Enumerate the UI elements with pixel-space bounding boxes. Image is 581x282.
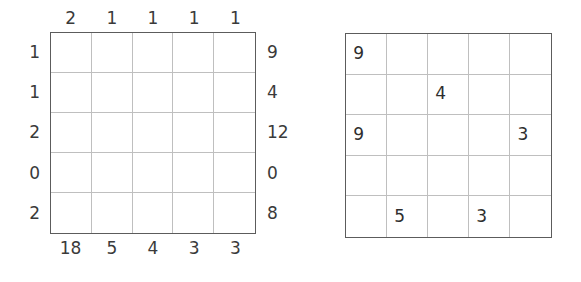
answer-cell-r2c1[interactable] <box>346 75 387 116</box>
cell-r2c4[interactable] <box>173 73 214 113</box>
cell-r3c5[interactable] <box>214 113 255 153</box>
cell-r2c5[interactable] <box>214 73 255 113</box>
right-puzzle: 9 4 9 3 5 3 <box>290 0 581 282</box>
answer-cell-r1c2[interactable] <box>387 34 428 75</box>
answer-cell-r1c3[interactable] <box>428 34 469 75</box>
cell-r1c5[interactable] <box>214 33 255 73</box>
right-puzzle-grid[interactable]: 9 4 9 3 5 3 <box>345 33 552 238</box>
answer-cell-r5c3[interactable] <box>428 196 469 237</box>
cell-r1c1[interactable] <box>51 33 92 73</box>
cell-r5c5[interactable] <box>214 193 255 233</box>
answer-cell-r2c4[interactable] <box>469 75 510 116</box>
cell-r2c3[interactable] <box>133 73 174 113</box>
answer-cell-r3c1[interactable]: 9 <box>346 115 387 156</box>
answer-cell-r4c5[interactable] <box>510 156 551 197</box>
answer-cell-r1c4[interactable] <box>469 34 510 75</box>
left-puzzle-top-clues: 2 1 1 1 1 <box>50 6 256 30</box>
clue-left-3: 2 <box>10 113 50 153</box>
cell-r5c2[interactable] <box>92 193 133 233</box>
answer-cell-r5c1[interactable] <box>346 196 387 237</box>
cell-r1c2[interactable] <box>92 33 133 73</box>
cell-r5c1[interactable] <box>51 193 92 233</box>
left-puzzle-bottom-clues: 18 5 4 3 3 <box>50 236 256 260</box>
answer-cell-r5c2[interactable]: 5 <box>387 196 428 237</box>
cell-r3c4[interactable] <box>173 113 214 153</box>
cell-r4c4[interactable] <box>173 153 214 193</box>
cell-r2c2[interactable] <box>92 73 133 113</box>
answer-cell-r2c3[interactable]: 4 <box>428 75 469 116</box>
cell-r1c3[interactable] <box>133 33 174 73</box>
clue-bottom-1: 18 <box>50 236 91 260</box>
clue-left-5: 2 <box>10 194 50 234</box>
cell-r3c3[interactable] <box>133 113 174 153</box>
clue-bottom-2: 5 <box>91 236 132 260</box>
clue-bottom-3: 4 <box>132 236 173 260</box>
clue-bottom-5: 3 <box>215 236 256 260</box>
answer-cell-r5c5[interactable] <box>510 196 551 237</box>
cell-r5c4[interactable] <box>173 193 214 233</box>
answer-cell-r3c5[interactable]: 3 <box>510 115 551 156</box>
clue-top-3: 1 <box>132 6 173 30</box>
answer-cell-r4c2[interactable] <box>387 156 428 197</box>
left-puzzle-left-clues: 1 1 2 0 2 <box>10 32 50 234</box>
answer-value-r1c1: 9 <box>353 45 364 62</box>
answer-cell-r5c4[interactable]: 3 <box>469 196 510 237</box>
cell-r4c1[interactable] <box>51 153 92 193</box>
cell-r5c3[interactable] <box>133 193 174 233</box>
puzzle-canvas: 2 1 1 1 1 1 1 2 0 2 <box>0 0 581 282</box>
answer-value-r3c5: 3 <box>517 126 528 143</box>
answer-cell-r1c5[interactable] <box>510 34 551 75</box>
clue-left-4: 0 <box>10 153 50 193</box>
clue-bottom-4: 3 <box>174 236 215 260</box>
clue-top-5: 1 <box>215 6 256 30</box>
answer-value-r5c4: 3 <box>476 208 487 225</box>
answer-cell-r2c2[interactable] <box>387 75 428 116</box>
left-puzzle: 2 1 1 1 1 1 1 2 0 2 <box>0 0 290 282</box>
answer-cell-r4c3[interactable] <box>428 156 469 197</box>
answer-value-r2c3: 4 <box>435 86 446 103</box>
clue-top-1: 2 <box>50 6 91 30</box>
answer-cell-r3c2[interactable] <box>387 115 428 156</box>
left-puzzle-grid[interactable] <box>50 32 256 234</box>
answer-value-r5c2: 5 <box>394 208 405 225</box>
cell-r4c5[interactable] <box>214 153 255 193</box>
answer-cell-r3c4[interactable] <box>469 115 510 156</box>
clue-left-1: 1 <box>10 32 50 72</box>
cell-r4c3[interactable] <box>133 153 174 193</box>
cell-r3c1[interactable] <box>51 113 92 153</box>
cell-r1c4[interactable] <box>173 33 214 73</box>
answer-cell-r2c5[interactable] <box>510 75 551 116</box>
clue-top-2: 1 <box>91 6 132 30</box>
answer-cell-r4c4[interactable] <box>469 156 510 197</box>
answer-cell-r4c1[interactable] <box>346 156 387 197</box>
cell-r2c1[interactable] <box>51 73 92 113</box>
clue-top-4: 1 <box>174 6 215 30</box>
cell-r4c2[interactable] <box>92 153 133 193</box>
answer-value-r3c1: 9 <box>353 126 364 143</box>
answer-cell-r1c1[interactable]: 9 <box>346 34 387 75</box>
cell-r3c2[interactable] <box>92 113 133 153</box>
clue-left-2: 1 <box>10 72 50 112</box>
answer-cell-r3c3[interactable] <box>428 115 469 156</box>
